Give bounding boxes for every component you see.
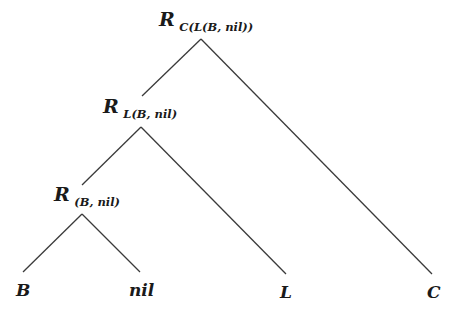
node-mid-symbol: R [103, 95, 119, 117]
node-mid-subscript: L(B, nil) [123, 107, 177, 121]
leaf-b: B [16, 282, 30, 299]
edge-root-to-mid [142, 39, 201, 96]
node-low-subscript: (B, nil) [74, 195, 120, 209]
node-mid: RL(B, nil) [103, 97, 177, 116]
edge-low-to-b [23, 214, 82, 272]
node-root-subscript: C(L(B, nil)) [179, 20, 253, 34]
node-low: R(B, nil) [54, 185, 120, 204]
node-root-symbol: R [159, 8, 175, 30]
leaf-l: L [280, 284, 292, 301]
node-low-symbol: R [54, 183, 70, 205]
edge-root-to-c [201, 39, 432, 274]
edge-mid-to-l [141, 127, 286, 274]
edge-low-to-nil [82, 214, 140, 272]
leaf-nil: nil [129, 282, 154, 299]
leaf-c: C [427, 284, 441, 301]
node-root: RC(L(B, nil)) [159, 10, 253, 29]
edge-mid-to-low [82, 127, 141, 185]
tree-edges [0, 0, 457, 313]
